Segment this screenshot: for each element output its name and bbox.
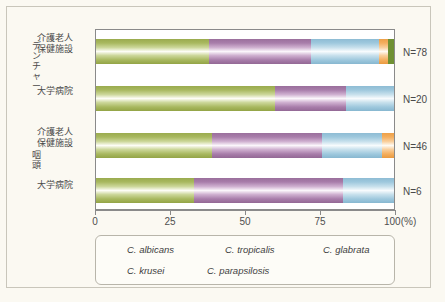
bar-row-1 bbox=[96, 86, 394, 111]
bar-segment-parapsilosis bbox=[388, 39, 394, 64]
bar-segment-tropicalis bbox=[212, 133, 322, 158]
bar-segment-albicans bbox=[96, 178, 194, 203]
legend-label-glabrata: C. glabrata bbox=[323, 244, 369, 255]
x-tick-label-100: 100(%) bbox=[384, 216, 416, 227]
bar-segment-albicans bbox=[96, 86, 275, 111]
bar-row-2 bbox=[96, 133, 394, 158]
x-tick-75 bbox=[320, 210, 321, 215]
figure-canvas: デンチャー 咽頭 介護老人 保健施設 大学病院 介護老人 保健施設 大学病院 0… bbox=[0, 0, 445, 302]
legend-label-parapsilosis: C. parapsilosis bbox=[207, 265, 269, 276]
bar-segment-glabrata bbox=[322, 133, 382, 158]
bar-segment-glabrata bbox=[311, 39, 380, 64]
bar-segment-krusei bbox=[379, 39, 388, 64]
legend-swatch-tropicalis bbox=[206, 245, 221, 255]
bar-segment-tropicalis bbox=[275, 86, 347, 111]
x-tick-label-25: 25 bbox=[164, 216, 175, 227]
bar-row-3 bbox=[96, 178, 394, 203]
legend-label-albicans: C. albicans bbox=[127, 244, 174, 255]
legend-item-glabrata: C. glabrata bbox=[304, 244, 369, 255]
legend-label-krusei: C. krusei bbox=[127, 265, 164, 276]
figure-frame: デンチャー 咽頭 介護老人 保健施設 大学病院 介護老人 保健施設 大学病院 0… bbox=[6, 6, 431, 288]
sample-size-2: N=46 bbox=[403, 141, 427, 152]
bar-segment-glabrata bbox=[343, 178, 394, 203]
group-label-pharynx: 咽頭 bbox=[29, 150, 43, 170]
legend-item-parapsilosis: C. parapsilosis bbox=[188, 265, 269, 276]
row-label-3: 大学病院 bbox=[11, 180, 73, 191]
bar-segment-tropicalis bbox=[209, 39, 310, 64]
bar-row-0 bbox=[96, 39, 394, 64]
legend-item-krusei: C. krusei bbox=[108, 265, 164, 276]
x-tick-25 bbox=[170, 210, 171, 215]
x-tick-label-50: 50 bbox=[239, 216, 250, 227]
x-tick-0 bbox=[95, 210, 96, 215]
bar-segment-albicans bbox=[96, 39, 209, 64]
legend-swatch-glabrata bbox=[304, 245, 319, 255]
row-label-2: 介護老人 保健施設 bbox=[11, 127, 73, 149]
x-tick-50 bbox=[245, 210, 246, 215]
x-tick-label-0: 0 bbox=[92, 216, 98, 227]
legend-swatch-krusei bbox=[108, 266, 123, 276]
sample-size-1: N=20 bbox=[403, 94, 427, 105]
bar-segment-albicans bbox=[96, 133, 212, 158]
bar-segment-krusei bbox=[382, 133, 394, 158]
legend-item-albicans: C. albicans bbox=[108, 244, 174, 255]
sample-size-0: N=78 bbox=[403, 47, 427, 58]
row-label-0: 介護老人 保健施設 bbox=[11, 33, 73, 55]
legend-item-tropicalis: C. tropicalis bbox=[206, 244, 275, 255]
plot-area bbox=[95, 29, 395, 210]
row-label-1: 大学病院 bbox=[11, 86, 73, 97]
x-tick-100 bbox=[395, 210, 396, 215]
legend-swatch-parapsilosis bbox=[188, 266, 203, 276]
legend-swatch-albicans bbox=[108, 245, 123, 255]
bar-segment-glabrata bbox=[346, 86, 394, 111]
x-tick-label-75: 75 bbox=[314, 216, 325, 227]
sample-size-3: N=6 bbox=[403, 186, 422, 197]
legend-label-tropicalis: C. tropicalis bbox=[225, 244, 275, 255]
legend-box: C. albicans C. tropicalis C. glabrata C.… bbox=[95, 235, 395, 285]
bar-segment-tropicalis bbox=[194, 178, 343, 203]
